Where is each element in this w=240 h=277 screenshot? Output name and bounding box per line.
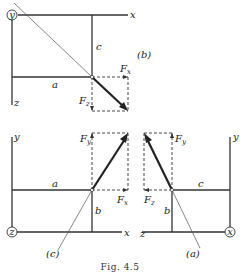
fz-label: Fz [143,194,155,207]
fy-label: Fy [174,133,187,146]
panel-c: y x z a b Fy Fx (c) [7,131,130,259]
origin-axis-label: x [227,226,233,237]
dim-b-label: b [95,205,101,216]
dim-a-label: a [52,79,58,90]
dim-c-label: c [198,178,204,189]
fy-arrowhead-icon [170,133,174,138]
figure-canvas: x z y c a Fx Fz (b) y x z a b [0,0,240,277]
x-axis-label: x [130,9,136,20]
panel-b: x z y c a Fx Fz (b) [7,3,151,111]
point-of-application [170,188,173,191]
fy-label: Fy [79,133,92,146]
fz-arrowhead-icon [90,106,94,111]
y-axis-label: y [232,131,239,142]
dim-b-label: b [164,205,170,216]
dim-c-label: c [96,41,102,52]
point-of-application [90,188,93,191]
line-of-action [58,190,92,250]
point-of-application [90,75,93,78]
line-of-action [14,3,92,77]
z-axis-label: z [13,97,20,108]
fx-label: Fx [119,63,131,76]
force-vector [92,139,125,190]
panel-a: y z x c b Fy Fz (a) [139,131,239,259]
z-axis-label: z [139,228,146,239]
y-axis-label: y [13,131,20,142]
x-axis-label: x [124,227,130,238]
fz-label: Fz [78,95,90,108]
force-arrowhead-icon [144,133,152,143]
figure-caption: Fig. 4.5 [101,262,140,272]
origin-axis-label: y [8,9,15,20]
panel-tag-a: (a) [186,248,200,259]
fx-arrowhead-icon [123,188,128,192]
fx-label: Fx [116,194,128,207]
fz-arrowhead-icon [144,188,149,192]
panel-tag-c: (c) [46,248,60,259]
force-arrowhead-icon [120,133,128,143]
panel-tag-b: (b) [137,49,151,60]
line-of-action [172,190,200,248]
origin-axis-label: z [8,226,15,237]
force-vector [92,77,124,107]
dim-a-label: a [52,178,58,189]
force-vector [147,139,172,190]
